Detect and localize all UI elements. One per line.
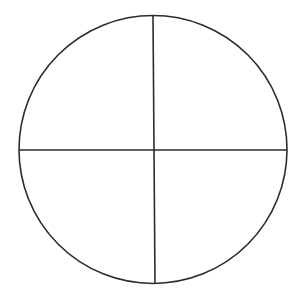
quadrant-circle-diagram: [0, 0, 300, 307]
